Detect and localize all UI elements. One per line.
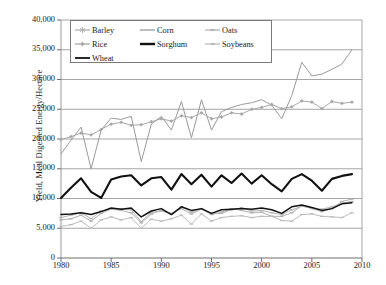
x-axis-tick-label: 1980 <box>41 261 81 270</box>
y-axis-tick-label: 25,000 <box>11 104 55 113</box>
chart-legend: BarleyCornOatsRiceSorghumSoybeansWheat <box>70 20 272 63</box>
legend-item-barley[interactable]: Barley <box>75 23 140 37</box>
legend-label: Wheat <box>92 54 114 63</box>
legend-label: Sorghum <box>157 40 187 49</box>
series-rice <box>59 99 354 141</box>
legend-swatch-rice-icon <box>75 40 90 48</box>
legend-item-soybeans[interactable]: Soybeans <box>205 37 270 51</box>
legend-label: Oats <box>222 26 237 35</box>
legend-item-sorghum[interactable]: Sorghum <box>140 37 205 51</box>
x-axis-tick-label: 2000 <box>242 261 282 270</box>
y-axis-tick-label: 40,000 <box>11 15 55 24</box>
legend-item-wheat[interactable]: Wheat <box>75 51 140 65</box>
y-axis-tick-label: 30,000 <box>11 74 55 83</box>
series-soybeans <box>59 213 354 228</box>
legend-label: Corn <box>157 26 174 35</box>
legend-swatch-oats-icon <box>205 26 220 34</box>
series-wheat <box>61 203 352 217</box>
y-axis-tick-label: 35,000 <box>11 44 55 53</box>
y-axis-tick-label: 10,000 <box>11 193 55 202</box>
chart-container: Yield, Mcal Digested Energy/Hectare 05,0… <box>0 0 386 285</box>
y-axis-tick-label: 20,000 <box>11 134 55 143</box>
legend-label: Soybeans <box>222 40 254 49</box>
legend-swatch-soybeans-icon <box>205 40 220 48</box>
legend-swatch-barley-icon <box>75 26 90 34</box>
legend-swatch-corn-icon <box>140 26 155 34</box>
legend-label: Barley <box>92 26 114 35</box>
x-axis-tick-label: 1985 <box>91 261 131 270</box>
legend-swatch-wheat-icon <box>75 54 90 62</box>
legend-swatch-sorghum-icon <box>140 40 155 48</box>
legend-item-oats[interactable]: Oats <box>205 23 270 37</box>
legend-item-rice[interactable]: Rice <box>75 37 140 51</box>
x-axis-tick-label: 2005 <box>292 261 332 270</box>
x-axis-tick-label: 2010 <box>342 261 382 270</box>
series-sorghum <box>61 174 352 198</box>
x-axis-tick-label: 1995 <box>192 261 232 270</box>
y-axis-tick-label: 15,000 <box>11 163 55 172</box>
legend-label: Rice <box>92 40 107 49</box>
y-axis-tick-label: 5,000 <box>11 223 55 232</box>
legend-item-corn[interactable]: Corn <box>140 23 205 37</box>
x-axis-tick-label: 1990 <box>141 261 181 270</box>
